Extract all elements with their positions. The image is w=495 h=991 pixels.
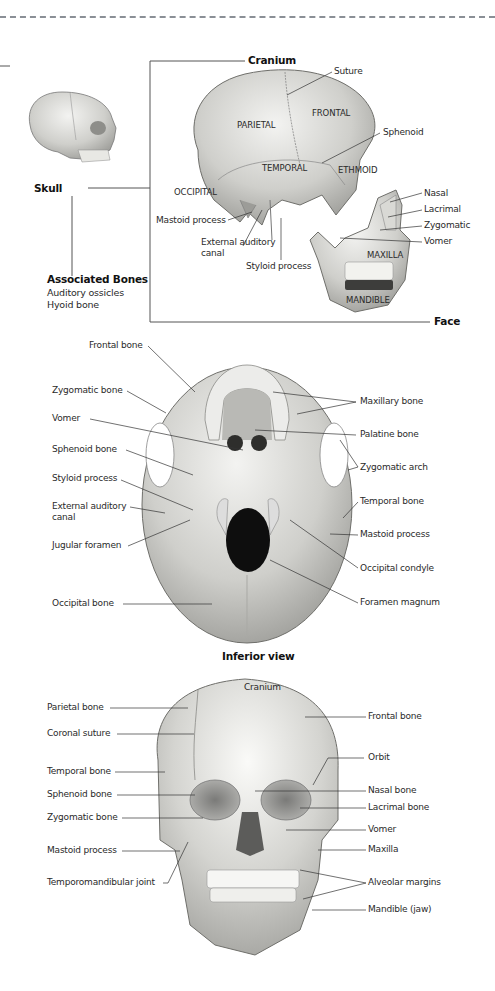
anterior-nasal-bone: Nasal bone xyxy=(368,785,416,796)
inferior-styloid-process: Styloid process xyxy=(52,473,117,484)
small-skull-thumbnail xyxy=(29,92,116,162)
anterior-lacrimal-bone: Lacrimal bone xyxy=(368,802,429,813)
associated-item-auditory-ossicles: Auditory ossicles xyxy=(47,287,124,298)
anterior-coronal-suture: Coronal suture xyxy=(47,728,110,739)
anterior-parietal-bone: Parietal bone xyxy=(47,702,104,713)
facial-zygomatic: Zygomatic xyxy=(424,220,470,231)
inferior-foramen-magnum: Foramen magnum xyxy=(360,597,440,608)
callout-external-auditory-canal-line1: External auditory xyxy=(201,237,275,248)
facial-nasal: Nasal xyxy=(424,188,448,199)
bone-temporal: TEMPORAL xyxy=(262,163,307,174)
skull-label: Skull xyxy=(34,183,62,194)
callout-sphenoid: Sphenoid xyxy=(383,127,424,138)
inferior-vomer: Vomer xyxy=(52,413,80,424)
associated-item-hyoid-bone: Hyoid bone xyxy=(47,299,99,310)
inferior-frontal-bone: Frontal bone xyxy=(89,340,143,351)
anterior-zygomatic-bone: Zygomatic bone xyxy=(47,812,118,823)
inferior-view-caption: Inferior view xyxy=(222,651,295,662)
associated-bones-title: Associated Bones xyxy=(47,274,148,285)
anterior-sphenoid-bone: Sphenoid bone xyxy=(47,789,112,800)
inferior-zygomatic-arch: Zygomatic arch xyxy=(360,462,428,473)
inferior-occipital-bone: Occipital bone xyxy=(52,598,114,609)
inferior-mastoid-process: Mastoid process xyxy=(360,529,430,540)
bone-ethmoid: ETHMOID xyxy=(338,165,377,176)
inferior-skull xyxy=(142,365,352,643)
anterior-vomer: Vomer xyxy=(368,824,396,835)
anterior-mastoid-process: Mastoid process xyxy=(47,845,117,856)
bone-occipital: OCCIPITAL xyxy=(174,187,217,198)
bone-parietal: PARIETAL xyxy=(237,120,275,131)
callout-suture: Suture xyxy=(334,66,363,77)
anterior-mandible: Mandible (jaw) xyxy=(368,904,431,915)
anterior-maxilla: Maxilla xyxy=(368,844,398,855)
anterior-frontal-bone: Frontal bone xyxy=(368,711,422,722)
inferior-maxillary-bone: Maxillary bone xyxy=(360,396,423,407)
inferior-jugular-foramen: Jugular foramen xyxy=(52,540,121,551)
facial-maxilla: MAXILLA xyxy=(367,250,403,261)
cranium-label: Cranium xyxy=(248,55,296,66)
callout-external-auditory-canal-line2: canal xyxy=(201,248,224,259)
facial-lacrimal: Lacrimal xyxy=(424,204,461,215)
anterior-cranium-label: Cranium xyxy=(244,682,281,693)
anterior-skull xyxy=(157,679,338,955)
inferior-zygomatic-bone: Zygomatic bone xyxy=(52,385,123,396)
anterior-orbit: Orbit xyxy=(368,752,390,763)
inferior-external-auditory-canal-line1: External auditory xyxy=(52,501,126,512)
bone-frontal: FRONTAL xyxy=(312,108,350,119)
facial-vomer: Vomer xyxy=(424,236,452,247)
anterior-temporal-bone: Temporal bone xyxy=(47,766,111,777)
facial-mandible: MANDIBLE xyxy=(346,295,390,306)
inferior-external-auditory-canal-line2: canal xyxy=(52,512,75,523)
anterior-alveolar-margins: Alveolar margins xyxy=(368,877,441,888)
inferior-temporal-bone: Temporal bone xyxy=(360,496,424,507)
face-label: Face xyxy=(434,316,460,327)
callout-styloid-process: Styloid process xyxy=(246,261,311,272)
anterior-temporomandibular-joint: Temporomandibular joint xyxy=(47,877,155,888)
callout-mastoid-process: Mastoid process xyxy=(156,215,226,226)
inferior-sphenoid-bone: Sphenoid bone xyxy=(52,444,117,455)
inferior-occipital-condyle: Occipital condyle xyxy=(360,563,434,574)
inferior-palatine-bone: Palatine bone xyxy=(360,429,419,440)
